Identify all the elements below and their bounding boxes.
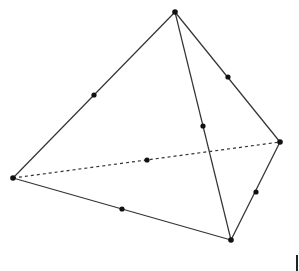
midpoint-BD (144, 157, 149, 162)
tetrahedron-diagram (0, 0, 299, 271)
vertex-B (10, 175, 16, 181)
cursor-mark (296, 255, 298, 271)
vertex-C (228, 237, 234, 243)
midpoint-AD (225, 74, 230, 79)
midpoint-AC (200, 123, 205, 128)
points (10, 9, 283, 243)
edges (13, 12, 280, 240)
midpoint-CD (253, 189, 258, 194)
vertex-A (172, 9, 178, 15)
vertex-D (277, 139, 283, 145)
midpoint-BC (119, 206, 124, 211)
midpoint-AB (91, 92, 96, 97)
